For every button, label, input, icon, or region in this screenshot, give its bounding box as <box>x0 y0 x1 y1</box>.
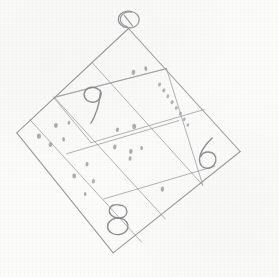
digit-9 <box>84 87 101 123</box>
dotted-line-marks <box>157 82 189 127</box>
circle-loop-icon <box>118 11 139 28</box>
pencil-drawing <box>0 0 279 277</box>
grid-outer-border <box>17 29 240 253</box>
dot-marks-row3-col3 <box>160 186 164 192</box>
digit-6 <box>200 138 216 168</box>
grid-lines-rows-lower <box>54 69 166 143</box>
grid-lines-rows <box>55 69 205 143</box>
sketch-canvas: 9 6 8 pencil sketch: tilted 3x3 box grid… <box>0 0 279 277</box>
digit-8 <box>108 205 128 235</box>
dot-marks-row2-col1 <box>37 121 71 148</box>
dot-marks-row2-col2 <box>113 124 144 161</box>
